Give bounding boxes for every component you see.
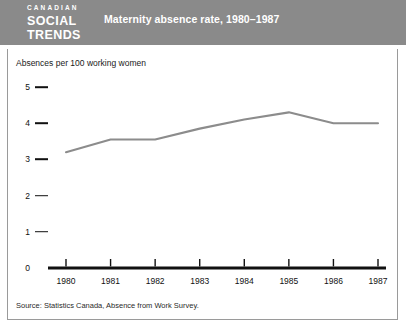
publication-logo: CANADIAN SOCIAL TRENDS — [27, 5, 81, 43]
brand-line-canadian: CANADIAN — [27, 5, 81, 12]
chart-body-frame — [7, 49, 398, 320]
header-band: CANADIAN SOCIAL TRENDS Maternity absence… — [0, 0, 406, 45]
chart-title: Maternity absence rate, 1980–1987 — [104, 13, 280, 25]
y-axis-label: Absences per 100 working women — [16, 58, 146, 68]
source-note: Source: Statistics Canada, Absence from … — [16, 301, 199, 310]
brand-line-social: SOCIAL — [27, 14, 81, 29]
figure-root: CANADIAN SOCIAL TRENDS Maternity absence… — [0, 0, 406, 335]
brand-line-trends: TRENDS — [27, 28, 81, 43]
